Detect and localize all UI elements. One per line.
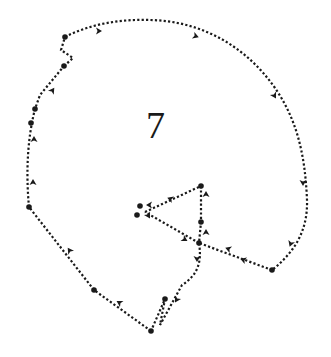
path-segment-center-to-apex <box>145 186 201 212</box>
waypoint-dot <box>148 328 154 334</box>
direction-arrow-icon <box>96 28 102 35</box>
trajectory-path-svg <box>0 0 331 357</box>
waypoint-dot <box>91 287 97 293</box>
direction-arrow-icon <box>270 92 279 101</box>
direction-arrow-icon <box>203 191 210 197</box>
direction-arrow-icon <box>146 202 152 209</box>
direction-arrow-icon <box>31 136 38 142</box>
path-segment-arc <box>65 20 307 270</box>
waypoint-dot <box>198 183 204 189</box>
path-segment-zigzag <box>61 37 73 66</box>
path-segment-junction-to-center <box>145 212 199 243</box>
waypoint-dot <box>137 203 143 209</box>
path-segment-descent <box>151 243 200 331</box>
waypoint-dot <box>269 267 275 273</box>
waypoint-dot <box>32 106 38 112</box>
waypoint-dot <box>162 296 168 302</box>
trajectory-diagram: 7 <box>0 0 331 357</box>
waypoint-dot <box>198 219 204 225</box>
path-segment-bottom-left <box>29 207 151 331</box>
path-segment-apex-vertical <box>199 186 201 243</box>
direction-arrow-icon <box>48 86 57 95</box>
direction-arrow-icon <box>115 298 124 307</box>
waypoint-dot <box>134 212 140 218</box>
direction-arrow-icon <box>181 235 190 244</box>
waypoint-dot <box>26 204 32 210</box>
path-segment-right-return <box>199 243 272 270</box>
waypoint-dot <box>62 34 68 40</box>
figure-label: 7 <box>146 106 165 144</box>
direction-arrow-icon <box>30 179 37 185</box>
path-segment-left-side <box>27 66 64 207</box>
direction-arrow-icon <box>203 229 210 235</box>
waypoint-dot <box>61 63 67 69</box>
direction-arrow-icon <box>286 240 295 248</box>
direction-arrow-icon <box>192 32 200 41</box>
waypoint-dot <box>28 120 34 126</box>
waypoint-dot <box>196 240 202 246</box>
